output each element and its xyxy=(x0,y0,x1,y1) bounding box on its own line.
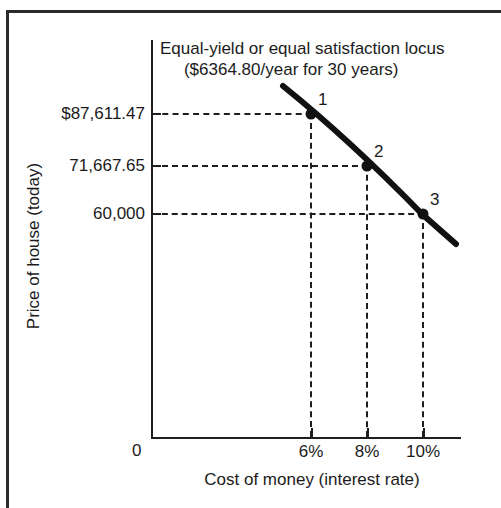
x-axis-tick-1 xyxy=(311,428,313,438)
data-point-3-label: 3 xyxy=(430,190,439,210)
data-point-1-label: 1 xyxy=(318,90,327,110)
x-axis-tick-2 xyxy=(367,428,369,438)
guide-line-vertical-2 xyxy=(366,165,368,437)
chart-title: Equal-yield or equal satisfaction locus xyxy=(160,38,444,59)
figure-frame-left-border xyxy=(6,10,9,508)
figure-frame-top-border xyxy=(6,10,501,13)
y-axis-label-1-wrap: $87,611.47 xyxy=(0,104,145,124)
guide-line-vertical-3 xyxy=(422,213,424,437)
x-axis-tick-3 xyxy=(423,428,425,438)
guide-line-horizontal-1 xyxy=(152,113,312,115)
x-axis-origin-label: 0 xyxy=(132,441,141,461)
x-axis-label-1: 6% xyxy=(283,442,339,462)
x-axis-line xyxy=(151,437,461,439)
y-axis-line xyxy=(151,40,153,439)
x-axis-title: Cost of money (interest rate) xyxy=(152,470,472,490)
guide-line-horizontal-3 xyxy=(152,213,424,215)
figure-container: Equal-yield or equal satisfaction locus … xyxy=(0,0,501,508)
data-point-2-label: 2 xyxy=(374,142,383,162)
y-axis-label-2-wrap: 71,667.65 xyxy=(0,156,145,176)
chart-subtitle: ($6364.80/year for 30 years) xyxy=(160,59,444,80)
guide-line-horizontal-2 xyxy=(152,165,368,167)
y-axis-title: Price of house (today) xyxy=(24,126,44,366)
y-axis-label-3-wrap: 60,000 xyxy=(0,204,145,224)
x-axis-label-3: 10% xyxy=(395,442,451,462)
y-axis-label-1: $87,611.47 xyxy=(5,104,145,124)
x-axis-label-2: 8% xyxy=(339,442,395,462)
chart-title-block: Equal-yield or equal satisfaction locus … xyxy=(160,38,444,80)
guide-line-vertical-1 xyxy=(310,113,312,437)
